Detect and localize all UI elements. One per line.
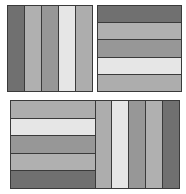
stripe (42, 6, 58, 91)
stripe (163, 101, 179, 188)
stripe (112, 101, 128, 188)
bottom-right-vertical-stripes (96, 101, 180, 188)
stripe (98, 23, 181, 39)
stripe (11, 171, 95, 188)
bottom-left-horizontal-stripes (11, 101, 95, 188)
top-right-horizontal-stripe-square (97, 5, 182, 92)
stripe (11, 119, 95, 136)
stripe (129, 101, 145, 188)
stripe (146, 101, 162, 188)
stripe (11, 154, 95, 171)
stripe (11, 101, 95, 118)
stripe (96, 101, 112, 188)
stripe (8, 6, 24, 91)
stripe (25, 6, 41, 91)
stripe (98, 6, 181, 22)
bottom-combined-stripe-rectangle (10, 100, 180, 189)
stripe (11, 136, 95, 153)
stripe (98, 75, 181, 91)
stripe (98, 40, 181, 56)
top-left-vertical-stripe-square (7, 5, 93, 92)
stripe (76, 6, 92, 91)
stripe (59, 6, 75, 91)
stripe (98, 58, 181, 74)
